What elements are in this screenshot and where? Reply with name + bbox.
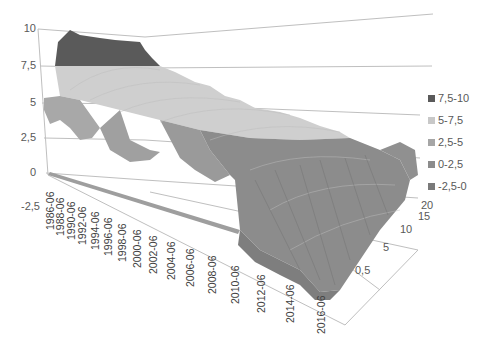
x-tick: 1992-06 [76,206,88,245]
legend-item: 2,5-5 [428,131,469,153]
y-tick-10: 10 [400,223,412,235]
legend-item: 0-2,5 [428,153,469,175]
z-tick-10: 10 [0,22,36,34]
y-tick-5: 5 [383,241,389,253]
x-tick: 2002-06 [147,235,159,274]
legend-swatch-icon [428,117,435,124]
z-tick-5: 5 [0,96,36,108]
legend: 7,5-10 5-7,5 2,5-5 0-2,5 -2,5-0 [428,87,469,197]
x-tick: 2014-06 [284,284,296,323]
legend-swatch-icon [428,183,435,190]
legend-item: 7,5-10 [428,87,469,109]
z-tick-2-5: 2,5 [0,131,36,143]
legend-label: 0-2,5 [438,158,463,170]
y-tick-15: 15 [418,210,430,222]
legend-item: 5-7,5 [428,109,469,131]
legend-item: -2,5-0 [428,175,469,197]
x-tick: 1996-06 [102,217,114,256]
legend-label: 7,5-10 [438,92,469,104]
x-tick: 2004-06 [165,241,177,280]
z-tick-minus-2-5: -2,5 [4,200,40,212]
y-tick-20: 20 [421,199,433,211]
surface [44,30,418,300]
z-tick-0: 0 [0,166,36,178]
x-tick: 1994-06 [89,211,101,250]
x-tick: 2012-06 [255,274,267,313]
legend-swatch-icon [428,161,435,168]
x-tick: 2006-06 [184,248,196,287]
y-tick-0-5: 0,5 [355,264,370,276]
x-tick: 1998-06 [116,223,128,262]
legend-swatch-icon [428,95,435,102]
x-tick: 2010-06 [229,265,241,304]
legend-label: 5-7,5 [438,114,463,126]
z-tick-7-5: 7,5 [0,59,36,71]
surface-chart [0,0,483,341]
x-tick: 2000-06 [131,229,143,268]
x-tick: 2008-06 [206,255,218,294]
legend-swatch-icon [428,139,435,146]
legend-label: 2,5-5 [438,136,463,148]
x-tick: 2016-06 [315,295,327,334]
legend-label: -2,5-0 [438,180,467,192]
